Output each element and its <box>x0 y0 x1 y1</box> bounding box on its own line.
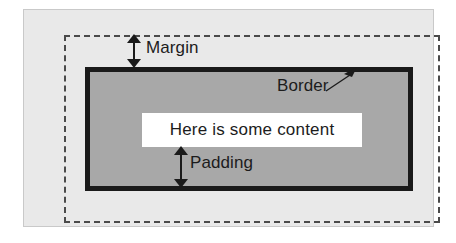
arrow-head-down-icon <box>127 59 141 68</box>
arrow-head-down-icon <box>174 179 188 188</box>
leader-line <box>326 75 350 91</box>
content-text: Here is some content <box>170 120 335 140</box>
arrow-shaft <box>180 152 182 182</box>
content-box: Here is some content <box>142 113 362 147</box>
padding-label: Padding <box>190 153 253 173</box>
margin-area: Here is some content Margin Border Paddi… <box>23 9 434 227</box>
margin-label: Margin <box>146 38 199 58</box>
border-label: Border <box>277 76 329 96</box>
margin-double-arrow-icon <box>127 34 141 68</box>
padding-double-arrow-icon <box>174 146 188 188</box>
leader-arrow-head-icon <box>344 67 357 77</box>
box-model-figure: Here is some content Margin Border Paddi… <box>0 0 456 243</box>
border-leader-arrow-icon <box>324 65 364 99</box>
